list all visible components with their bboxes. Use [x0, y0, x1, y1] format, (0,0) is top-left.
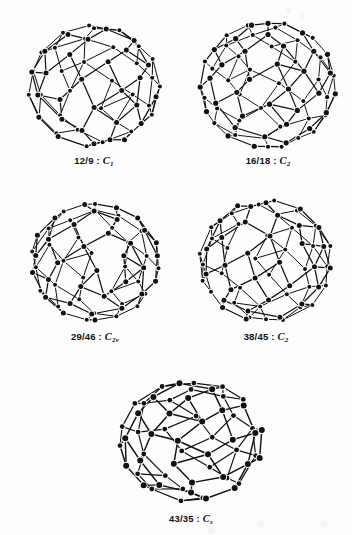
- cage-caption-numbers: 12/9 :: [74, 155, 102, 166]
- cage-symmetry-subscript: 1: [110, 160, 114, 168]
- fullerene-cage-diagram-isomer-16-18: [192, 14, 344, 156]
- cage-symmetry-subscript: 2v: [112, 336, 119, 344]
- fullerene-cell-isomer-12-9: 12/9 : C1: [18, 16, 170, 167]
- cage-symmetry-subscript: s: [210, 518, 213, 526]
- cage-symmetry-group: C2v: [105, 331, 119, 342]
- cage-symmetry-group: C1: [103, 155, 114, 166]
- fullerene-cell-isomer-43-35: 43/35 : Cs: [108, 368, 274, 525]
- cage-caption-isomer-38-45: 38/45 : C2: [244, 332, 289, 343]
- cage-caption-isomer-16-18: 16/18 : C2: [246, 156, 291, 167]
- cage-caption-numbers: 29/46 :: [71, 331, 105, 342]
- fullerene-cell-isomer-38-45: 38/45 : C2: [190, 190, 342, 343]
- fullerene-cage-diagram-isomer-12-9: [18, 16, 170, 156]
- cage-symmetry-subscript: 2: [285, 336, 289, 344]
- fullerene-cell-isomer-16-18: 16/18 : C2: [192, 14, 344, 167]
- fullerene-cell-isomer-29-46: 29/46 : C2v: [20, 192, 170, 343]
- cage-symmetry-letter: C: [277, 331, 284, 342]
- cage-caption-isomer-12-9: 12/9 : C1: [74, 156, 113, 167]
- cage-caption-numbers: 38/45 :: [244, 331, 278, 342]
- fullerene-figure-grid: 12/9 : C116/18 : C229/46 : C2v38/45 : C2…: [0, 0, 352, 535]
- cage-symmetry-group: C2: [279, 155, 290, 166]
- fullerene-cage-diagram-isomer-38-45: [190, 190, 342, 332]
- cage-caption-isomer-43-35: 43/35 : Cs: [169, 514, 213, 525]
- cage-symmetry-group: Cs: [203, 513, 213, 524]
- cage-symmetry-subscript: 2: [287, 160, 291, 168]
- fullerene-cage-diagram-isomer-43-35: [108, 368, 274, 514]
- cage-caption-isomer-29-46: 29/46 : C2v: [71, 332, 119, 343]
- cage-symmetry-letter: C: [105, 331, 112, 342]
- cage-symmetry-letter: C: [279, 155, 286, 166]
- fullerene-cage-diagram-isomer-29-46: [20, 192, 170, 332]
- cage-symmetry-letter: C: [103, 155, 110, 166]
- cage-caption-numbers: 43/35 :: [169, 513, 203, 524]
- cage-symmetry-letter: C: [203, 513, 210, 524]
- cage-caption-numbers: 16/18 :: [246, 155, 280, 166]
- cage-symmetry-group: C2: [277, 331, 288, 342]
